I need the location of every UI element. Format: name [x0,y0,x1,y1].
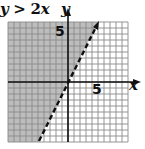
x-axis-label: x [129,78,138,93]
inequality-graph: y > 2x y x 5 5 [0,0,145,149]
title-operator: > [8,0,30,18]
x-tick-label: 5 [92,82,102,96]
y-axis-label: y [61,2,70,17]
title-variable: x [41,0,50,18]
title-coefficient: 2 [31,0,41,18]
inequality-title: y > 2x [0,2,49,17]
y-tick-label: 5 [55,24,65,38]
graph-canvas [0,0,145,149]
